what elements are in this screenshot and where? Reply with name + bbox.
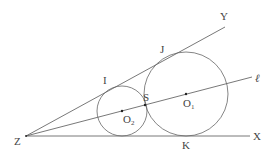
label-y: Y: [220, 10, 228, 22]
line-ell: [26, 77, 252, 136]
point-o2: [121, 110, 123, 112]
label-o1: O1: [183, 97, 195, 111]
point-o1: [185, 93, 187, 95]
label-ell: ℓ: [255, 72, 260, 84]
label-o2-sub: 2: [131, 119, 135, 127]
label-k: K: [182, 139, 190, 151]
point-z: [25, 135, 27, 137]
label-o1-main: O: [183, 97, 191, 109]
label-x: X: [253, 130, 261, 142]
label-o2: O2: [123, 113, 135, 127]
label-i: I: [103, 74, 107, 86]
label-j: J: [160, 43, 165, 55]
label-z: Z: [14, 135, 21, 147]
geometry-diagram: Z X Y ℓ I J S K O1 O2: [0, 0, 273, 155]
label-o2-main: O: [123, 113, 131, 125]
label-o1-sub: 1: [191, 103, 195, 111]
point-s: [144, 104, 146, 106]
label-s: S: [143, 91, 149, 103]
